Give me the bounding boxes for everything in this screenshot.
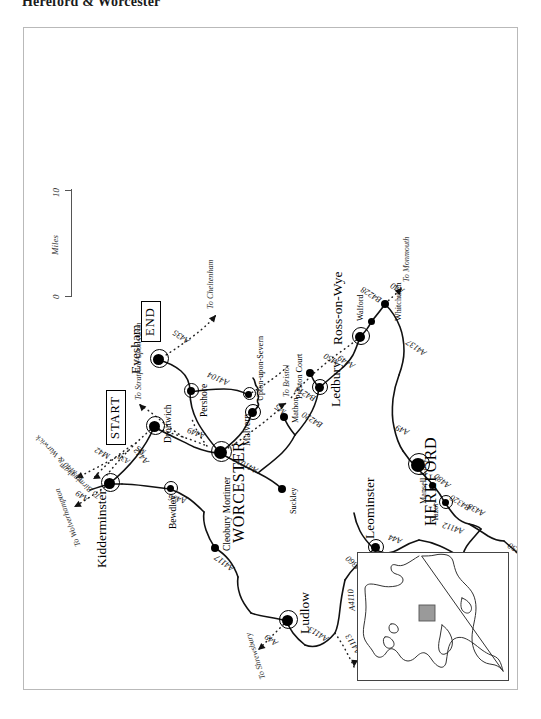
city-node-evesham: [153, 354, 164, 365]
scale-bar: 0 Miles 10: [60, 189, 82, 297]
road-label-a4110: A4110: [346, 589, 356, 611]
city-node-leominster: [371, 543, 380, 552]
destination-label-cheltenham: To Cheltenham: [207, 259, 215, 309]
place-label-droitwich: Droitwich: [164, 404, 174, 443]
start-marker-box[interactable]: START: [106, 390, 126, 445]
inset-region-highlight: [419, 605, 435, 621]
city-node-whitchurch: [381, 300, 389, 308]
inset-outline: [358, 553, 506, 678]
map-frame: Kidderminster Droitwich WORCESTER Evesha…: [23, 27, 518, 690]
destination-label-bristol: To Bristol: [283, 365, 291, 397]
place-label-malvern: Malvern: [243, 414, 253, 446]
city-node-ross-on-wye: [355, 332, 365, 342]
place-label-yazor: Yazor: [432, 503, 440, 522]
place-label-suckley: Suckley: [290, 488, 298, 514]
city-node-ledbury: [315, 383, 324, 392]
place-label-walford: Walford: [357, 294, 365, 321]
scale-min-label: 0: [52, 295, 61, 300]
scale-bar-line: [71, 189, 72, 297]
page-title: Hereford & Worcester: [22, 0, 161, 10]
locator-inset: [357, 552, 509, 681]
place-label-cleobury: Cleobury Mortimer: [223, 477, 233, 551]
place-label-upton: Upton-upon-Severn: [257, 336, 265, 401]
place-label-pershore: Pershore: [200, 384, 210, 417]
city-node-bewdley: [167, 485, 174, 492]
city-node-preston-court: [306, 369, 314, 377]
city-node-suckley: [278, 485, 286, 493]
place-label-mathon: Mathon: [292, 398, 300, 423]
place-label-ross-on-wye: Ross-on-Wye: [331, 272, 345, 345]
city-node-ludlow: [282, 615, 293, 626]
place-label-leominster: Leominster: [363, 478, 377, 539]
place-label-ledbury: Ledbury: [329, 361, 343, 407]
scale-bar-tick-max: [65, 190, 72, 191]
city-node-droitwich: [149, 421, 160, 432]
place-label-mansell-lacy: Mansell Lacy: [420, 459, 428, 504]
scale-unit-label: Miles: [51, 235, 60, 255]
scale-bar-tick-min: [65, 296, 72, 297]
city-node-walford: [368, 318, 375, 325]
city-node-kidderminster: [104, 478, 115, 489]
scale-max-label: 10: [52, 188, 61, 197]
end-marker-box[interactable]: END: [141, 301, 161, 342]
place-label-kidderminster: Kidderminster: [95, 490, 109, 568]
city-node-upton: [245, 391, 252, 398]
city-node-worcester: [214, 446, 227, 459]
city-node-cleobury-mortimer: [211, 544, 219, 552]
city-node-pershore: [187, 387, 195, 395]
destination-label-monmouth: To Monmouth: [403, 237, 411, 282]
